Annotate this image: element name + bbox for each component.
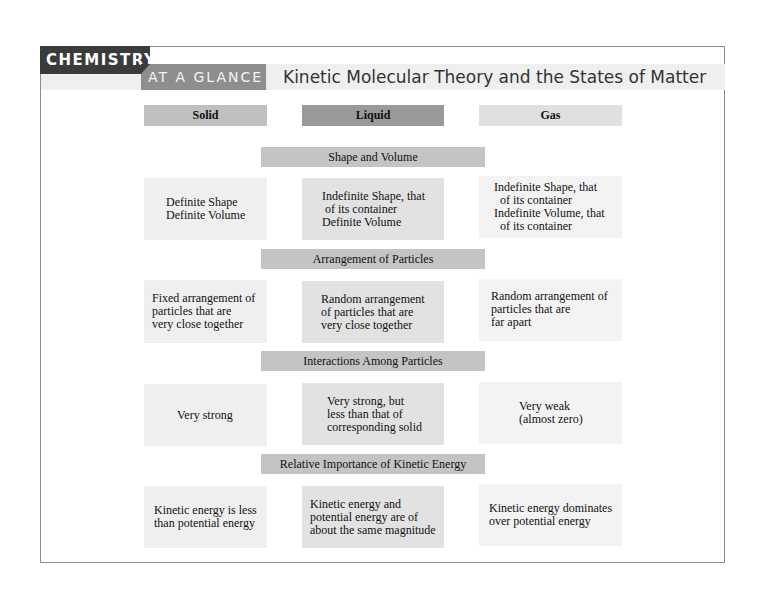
cell-solid-kinetic-energy: Kinetic energy is less than potential en… [144, 486, 267, 548]
page-title: Kinetic Molecular Theory and the States … [283, 64, 706, 90]
cell-liquid-shape-volume: Indefinite Shape, that of its container … [302, 178, 444, 240]
cell-gas-interactions: Very weak (almost zero) [479, 382, 622, 444]
column-header-solid: Solid [144, 105, 267, 126]
cell-liquid-arrangement: Random arrangement of particles that are… [302, 281, 444, 343]
cell-liquid-kinetic-energy: Kinetic energy and potential energy are … [302, 486, 444, 548]
subtitle-tab: AT A GLANCE [141, 64, 266, 90]
subtitle-tab-label: AT A GLANCE [148, 69, 263, 85]
column-header-liquid: Liquid [302, 105, 444, 126]
cell-gas-arrangement: Random arrangement of particles that are… [479, 279, 622, 341]
section-header-interactions: Interactions Among Particles [261, 351, 485, 371]
cell-gas-shape-volume: Indefinite Shape, that of its container … [479, 176, 622, 238]
section-header-shape-volume: Shape and Volume [261, 147, 485, 167]
section-header-kinetic-energy: Relative Importance of Kinetic Energy [261, 454, 485, 474]
column-header-gas: Gas [479, 105, 622, 126]
section-header-arrangement: Arrangement of Particles [261, 249, 485, 269]
cell-solid-shape-volume: Definite Shape Definite Volume [144, 178, 267, 240]
cell-gas-kinetic-energy: Kinetic energy dominates over potential … [479, 484, 622, 546]
cell-liquid-interactions: Very strong, but less than that of corre… [302, 383, 444, 445]
category-tab: CHEMISTRY [40, 46, 150, 74]
cell-solid-interactions: Very strong [144, 384, 267, 446]
cell-solid-arrangement: Fixed arrangement of particles that are … [144, 280, 267, 343]
